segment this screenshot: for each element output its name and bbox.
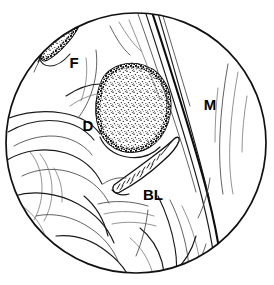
figure-canvas: F D BL M (0, 0, 274, 285)
label-D: D (83, 117, 94, 134)
endoscopic-figure: F D BL M (0, 0, 274, 285)
label-BL: BL (143, 186, 163, 203)
label-M: M (204, 96, 217, 113)
label-F: F (69, 54, 78, 71)
